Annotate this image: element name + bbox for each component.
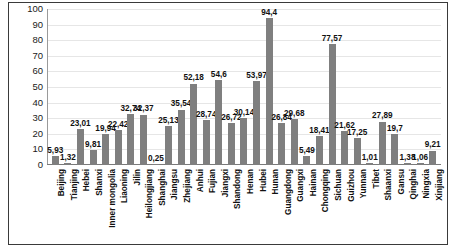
bar[interactable]: 27,89	[379, 122, 386, 166]
bar[interactable]: 22,42	[115, 130, 122, 165]
bar-slot: 28,74	[200, 9, 213, 165]
bar[interactable]: 5,49	[303, 156, 310, 165]
bar-slot: 29,68	[288, 9, 301, 165]
x-axis-slot: Shanxi	[87, 167, 100, 239]
x-axis-slot: Zhejiang	[175, 167, 188, 239]
x-axis-slot: Hunan	[263, 167, 276, 239]
y-axis: 1009080706050403020100	[19, 9, 43, 169]
bar[interactable]: 77,57	[329, 44, 336, 165]
bar[interactable]: 26,72	[228, 123, 235, 165]
x-axis-slot: Shandong	[225, 167, 238, 239]
plot-area: 5,931,3223,019,8119,9422,4232,7432,370,2…	[47, 9, 441, 165]
x-axis-slot: Beijing	[49, 167, 62, 239]
bar[interactable]: 5,93	[52, 156, 59, 165]
bar[interactable]: 1,38	[404, 163, 411, 165]
y-axis-tick-label: 30	[19, 113, 43, 123]
x-axis-slot: Guangdong	[275, 167, 288, 239]
bar-slot: 1,32	[62, 9, 75, 165]
bar-series: 5,931,3223,019,8119,9422,4232,7432,370,2…	[47, 9, 441, 165]
bar-slot: 5,49	[301, 9, 314, 165]
x-axis-slot: Jiangxi	[213, 167, 226, 239]
bar-slot: 77,57	[326, 9, 339, 165]
bar-slot: 19,94	[99, 9, 112, 165]
bar-slot: 26,84	[275, 9, 288, 165]
x-axis-slot: Qinghai	[401, 167, 414, 239]
bar-slot: 94,4	[263, 9, 276, 165]
x-axis-slot: Shaanxi	[376, 167, 389, 239]
bar-slot: 9,81	[87, 9, 100, 165]
x-axis-slot: Jilin	[124, 167, 137, 239]
x-axis-slot: Guangxi	[288, 167, 301, 239]
bar-slot: 19,7	[389, 9, 402, 165]
bar[interactable]: 23,01	[77, 129, 84, 165]
x-axis-slot: Yunnan	[351, 167, 364, 239]
y-axis-tick-label: 0	[19, 160, 43, 170]
bar[interactable]: 30,14	[240, 118, 247, 165]
bar[interactable]: 18,41	[316, 136, 323, 165]
bar[interactable]: 53,97	[253, 81, 260, 165]
y-axis-tick-label: 100	[19, 4, 43, 14]
x-axis-slot: Hebei	[74, 167, 87, 239]
bar-slot: 54,6	[213, 9, 226, 165]
x-axis-slot: Heilongjiang	[137, 167, 150, 239]
y-axis-tick-label: 60	[19, 67, 43, 77]
y-axis-tick-label: 10	[19, 145, 43, 155]
bar-slot: 30,14	[238, 9, 251, 165]
bar[interactable]: 1,06	[417, 163, 424, 165]
bar-slot: 52,18	[187, 9, 200, 165]
bar[interactable]: 9,81	[90, 150, 97, 165]
x-axis-slot: Fujian	[200, 167, 213, 239]
bar-slot: 9,21	[426, 9, 439, 165]
x-axis-slot: Inner mongolia	[99, 167, 112, 239]
y-axis-tick-label: 20	[19, 129, 43, 139]
bar[interactable]: 1,32	[64, 163, 71, 165]
x-axis-slot: Ningxia	[414, 167, 427, 239]
y-axis-tick-label: 50	[19, 82, 43, 92]
x-axis-slot: Gansu	[389, 167, 402, 239]
bar[interactable]: 1,01	[366, 163, 373, 165]
bar[interactable]: 25,13	[165, 126, 172, 165]
bar[interactable]: 35,54	[178, 110, 185, 165]
bar-slot: 32,74	[124, 9, 137, 165]
bar[interactable]: 19,7	[391, 134, 398, 165]
bar-slot: 27,89	[376, 9, 389, 165]
x-axis-slot: Shanghai	[150, 167, 163, 239]
x-axis-slot: Xinjiang	[426, 167, 439, 239]
bar-slot: 0,25	[150, 9, 163, 165]
bar[interactable]: 94,4	[266, 18, 273, 165]
bar[interactable]: 9,21	[429, 151, 436, 165]
bar[interactable]: 17,25	[354, 138, 361, 165]
bar-slot: 26,72	[225, 9, 238, 165]
bar-slot: 5,93	[49, 9, 62, 165]
bar-value-label: 9,21	[425, 141, 441, 149]
x-axis-slot: Jiangsu	[162, 167, 175, 239]
x-axis-slot: Guizhou	[338, 167, 351, 239]
bar-slot: 21,62	[338, 9, 351, 165]
x-axis-tick-label: Xinjiang	[436, 169, 444, 201]
bar-slot: 1,38	[401, 9, 414, 165]
bar[interactable]: 19,94	[102, 134, 109, 165]
bar[interactable]: 0,25	[152, 164, 159, 165]
bar[interactable]: 32,74	[127, 114, 134, 165]
bar-chart-container: 1009080706050403020100 5,931,3223,019,81…	[8, 2, 448, 245]
bar-slot: 18,41	[313, 9, 326, 165]
bar-slot: 17,25	[351, 9, 364, 165]
bar[interactable]: 54,6	[215, 80, 222, 165]
x-axis-slot: Anhui	[187, 167, 200, 239]
x-axis-slot: Hainan	[301, 167, 314, 239]
bar[interactable]: 26,84	[278, 123, 285, 165]
bar[interactable]: 52,18	[190, 84, 197, 165]
bar[interactable]: 28,74	[203, 120, 210, 165]
bar-slot: 1,01	[363, 9, 376, 165]
bar-slot: 35,54	[175, 9, 188, 165]
bar[interactable]: 32,37	[140, 115, 147, 165]
bar[interactable]: 29,68	[291, 119, 298, 165]
x-axis-slot: Sichuan	[326, 167, 339, 239]
x-axis: BeijingTianjingHebeiShanxiInner mongolia…	[47, 167, 441, 239]
bar-slot: 25,13	[162, 9, 175, 165]
bar-slot: 22,42	[112, 9, 125, 165]
x-axis-slot: Chongqing	[313, 167, 326, 239]
x-axis-slot: Tibet	[363, 167, 376, 239]
y-axis-tick-label: 40	[19, 98, 43, 108]
bar-slot: 53,97	[250, 9, 263, 165]
